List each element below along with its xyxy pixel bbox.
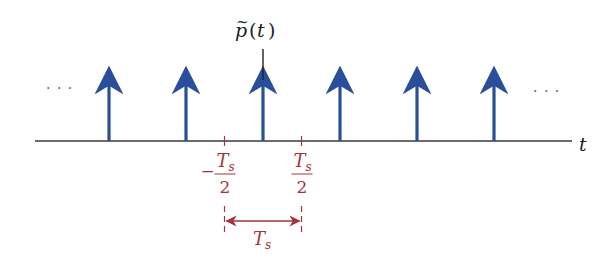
impulse-train-diagram: t · · · · · · ~ p ( t ) −Ts2Ts2 Ts [0,0,613,260]
tick-numerator-subscript: s [229,160,235,174]
title-var: t [257,19,265,41]
ellipsis-right: · · · [533,83,560,99]
tick-pos-half-period: Ts2 [292,136,313,197]
tick-denominator: 2 [220,177,231,197]
title-paren-close: ) [268,19,275,41]
impulse-train [109,80,494,141]
ellipsis-left: · · · [46,80,73,96]
title-base: p [235,19,247,41]
period-interval-annotation: Ts [225,206,302,252]
diagram-svg: t · · · · · · ~ p ( t ) −Ts2Ts2 Ts [0,0,613,260]
title-paren-open: ( [249,19,256,41]
tick-neg-half-period: −Ts2 [201,136,236,197]
interval-label-subscript: s [265,238,271,252]
tick-sign: − [201,161,215,181]
tick-numerator-subscript: s [306,160,312,174]
signal-title-label: ~ p ( t ) [235,13,275,41]
time-axis-label: t [579,133,587,155]
tick-denominator: 2 [297,177,308,197]
half-period-ticks: −Ts2Ts2 [201,136,313,197]
